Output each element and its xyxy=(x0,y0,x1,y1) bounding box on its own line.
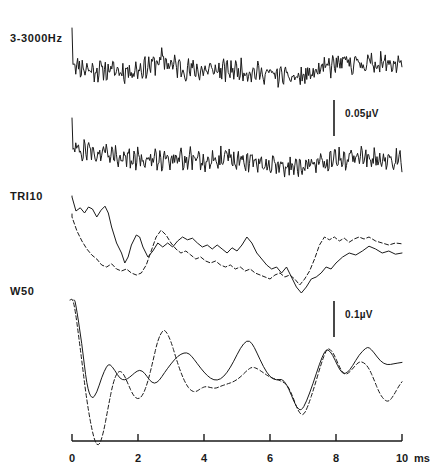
tri10-panel xyxy=(72,196,402,293)
axis-tick-label: 10 xyxy=(396,452,408,464)
evoked-potential-figure: 3-3000Hz TRI10 W50 0.05µV 0.1µV 0246810 … xyxy=(0,0,439,474)
trace-label-w50: W50 xyxy=(10,285,34,297)
axis-tick-label: 0 xyxy=(69,452,75,464)
axis-tick-label: 8 xyxy=(333,452,339,464)
traces-canvas xyxy=(0,0,439,474)
axis-tick-label: 2 xyxy=(135,452,141,464)
calibration-label-upper: 0.05µV xyxy=(345,108,379,119)
axis-unit-label: ms xyxy=(414,452,430,464)
w50-panel xyxy=(70,299,402,445)
calibration-label-lower: 0.1µV xyxy=(345,309,373,320)
broadband-trace-2 xyxy=(72,118,402,177)
axis-tick-label: 6 xyxy=(267,452,273,464)
trace-label-tri10: TRI10 xyxy=(10,190,43,202)
trace-label-band-filter: 3-3000Hz xyxy=(10,32,63,44)
broadband-trace-1 xyxy=(72,28,402,87)
time-axis xyxy=(72,434,402,441)
axis-tick-label: 4 xyxy=(201,452,207,464)
